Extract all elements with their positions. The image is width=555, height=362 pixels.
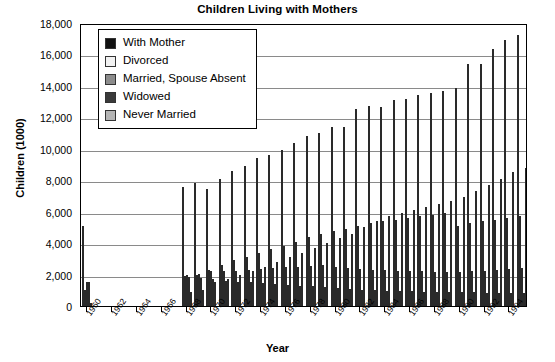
bar xyxy=(475,191,477,306)
chart-container: Children Living with Mothers Children (1… xyxy=(0,0,555,362)
bar-group xyxy=(268,25,278,306)
bar-group xyxy=(82,25,92,306)
bar-group xyxy=(281,25,291,306)
bar xyxy=(488,185,490,306)
bar-group xyxy=(442,25,452,306)
bar xyxy=(413,210,415,306)
bar xyxy=(438,204,440,306)
y-axis-tick-label: 4,000 xyxy=(46,238,72,250)
bar-group xyxy=(306,25,316,306)
y-axis-tick-label: 16,000 xyxy=(40,49,72,61)
bar xyxy=(401,213,403,306)
bar-group xyxy=(517,25,527,306)
bar-group xyxy=(492,25,502,306)
bar-group xyxy=(380,25,390,306)
bar-group xyxy=(467,25,477,306)
chart-legend: With MotherDivorcedMarried, Spouse Absen… xyxy=(98,29,257,129)
bar-group xyxy=(331,25,341,306)
bar xyxy=(376,221,378,306)
bar xyxy=(202,290,204,306)
y-axis-tick-label: 2,000 xyxy=(46,270,72,282)
legend-item-label: With Mother xyxy=(123,37,185,49)
bar xyxy=(339,238,341,306)
y-axis-tick-label: 8,000 xyxy=(46,175,72,187)
legend-swatch-icon xyxy=(105,92,116,103)
legend-swatch-icon xyxy=(105,110,116,121)
y-axis-tick-label: 10,000 xyxy=(40,144,72,156)
bar xyxy=(363,227,365,306)
bar xyxy=(500,179,502,306)
bar xyxy=(425,207,427,306)
legend-item: Widowed xyxy=(105,88,246,106)
bar-group xyxy=(405,25,415,306)
bar-group xyxy=(368,25,378,306)
bar-group xyxy=(343,25,353,306)
bar xyxy=(512,172,514,306)
legend-item: Divorced xyxy=(105,52,246,70)
legend-item-label: Married, Spouse Absent xyxy=(123,73,246,85)
bar xyxy=(289,257,291,306)
bar-group xyxy=(480,25,490,306)
bar xyxy=(301,253,303,306)
bar-group xyxy=(504,25,514,306)
bar xyxy=(314,248,316,306)
bar-group xyxy=(455,25,465,306)
legend-swatch-icon xyxy=(105,74,116,85)
y-axis-tick-label: 14,000 xyxy=(40,81,72,93)
bar xyxy=(276,262,278,306)
legend-item: With Mother xyxy=(105,34,246,52)
legend-item: Never Married xyxy=(105,106,246,124)
bar-group xyxy=(355,25,365,306)
bar xyxy=(326,243,328,306)
y-axis-tick-label: 6,000 xyxy=(46,207,72,219)
bar xyxy=(463,197,465,306)
bar-group xyxy=(393,25,403,306)
y-axis-tick-label: 12,000 xyxy=(40,112,72,124)
bar-group xyxy=(430,25,440,306)
legend-item-label: Widowed xyxy=(123,91,170,103)
y-axis-tick-label: 18,000 xyxy=(40,18,72,30)
bar xyxy=(252,271,254,306)
chart-title: Children Living with Mothers xyxy=(0,3,555,15)
bar xyxy=(525,168,527,306)
y-axis-tick-labels: 02,0004,0006,0008,00010,00012,00014,0001… xyxy=(0,24,76,307)
bar-group xyxy=(318,25,328,306)
legend-item-label: Never Married xyxy=(123,109,196,121)
legend-item-label: Divorced xyxy=(123,55,168,67)
bar-group xyxy=(256,25,266,306)
bar-group xyxy=(293,25,303,306)
bar-group xyxy=(417,25,427,306)
bar xyxy=(388,216,390,306)
legend-swatch-icon xyxy=(105,38,116,49)
x-axis-tick-labels: 1960196219641966196819701972197419761978… xyxy=(0,310,555,346)
bar xyxy=(450,201,452,306)
bar xyxy=(351,234,353,306)
x-axis-title: Year xyxy=(0,342,555,354)
legend-item: Married, Spouse Absent xyxy=(105,70,246,88)
legend-swatch-icon xyxy=(105,56,116,67)
